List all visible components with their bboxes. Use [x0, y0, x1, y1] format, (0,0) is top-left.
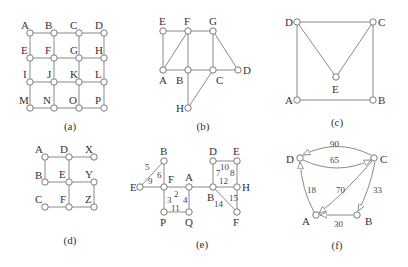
node-label: E [233, 145, 240, 157]
node-label: I [23, 68, 27, 80]
node-label: C [216, 74, 223, 86]
node-C [210, 67, 216, 73]
node-label: P [95, 94, 101, 106]
nodes: DCEAB [285, 16, 385, 106]
nodes: ADXBEYCFZ [35, 143, 97, 210]
node-label: J [47, 68, 52, 80]
panel-d-graph: ADXBEYCFZ(d) [35, 143, 97, 247]
node-label: H [242, 181, 250, 193]
node-label: E [159, 15, 166, 27]
panel-caption: (b) [197, 120, 210, 133]
node-label: Z [85, 193, 92, 205]
edge-C-H [188, 70, 213, 108]
edge-weight-label: 2 [174, 189, 179, 199]
node-A [313, 212, 319, 218]
node-label: F [60, 193, 66, 205]
panel-f-directed-weighted-graph: 906518703330DCAB(f) [286, 139, 387, 252]
node-D [297, 155, 303, 161]
node-N [51, 105, 57, 111]
edge-weight-label: 15 [229, 193, 239, 203]
node-label: E [332, 83, 339, 95]
node-H [234, 184, 240, 190]
node-B [161, 158, 167, 164]
node-E [66, 179, 72, 185]
node-label: E [21, 44, 28, 56]
node-C [370, 19, 376, 25]
edges [163, 31, 238, 108]
node-label: D [209, 145, 217, 157]
arc-C-to-A [319, 161, 372, 213]
node-label: N [43, 94, 51, 106]
node-label: A [285, 94, 293, 106]
edge-weight-label: 8 [230, 168, 235, 178]
node-label: D [60, 143, 68, 155]
edge-A-F [163, 31, 188, 70]
node-label: E [59, 168, 66, 180]
node-label: C [380, 153, 387, 165]
node-label: B [207, 191, 214, 203]
node-D [294, 19, 300, 25]
graph-figure: ABCDEFGHIJKLMNOP(a) EFGABCDH(b) DCEAB(c)… [0, 0, 408, 267]
node-E [234, 158, 240, 164]
node-label: F [45, 44, 51, 56]
panel-b-graph: EFGABCDH(b) [159, 15, 251, 133]
node-Z [91, 204, 97, 210]
edge-weight-label: 10 [220, 162, 230, 172]
node-P [101, 105, 107, 111]
node-label: B [45, 19, 52, 31]
node-C [42, 204, 48, 210]
node-label: B [160, 145, 167, 157]
edge-weight-label: 9 [148, 176, 153, 186]
node-label: A [35, 143, 43, 155]
node-F [66, 204, 72, 210]
node-J [51, 79, 57, 85]
node-L [101, 79, 107, 85]
node-C [371, 155, 377, 161]
edge-weight-label: 14 [214, 199, 224, 209]
node-label: D [286, 153, 294, 165]
edge-weight-label: 4 [183, 195, 188, 205]
node-F [161, 184, 167, 190]
panel-caption: (d) [64, 234, 77, 247]
node-B [42, 179, 48, 185]
edge-weight-label: 30 [334, 219, 344, 229]
node-label: A [21, 19, 29, 31]
node-label: E [130, 181, 137, 193]
node-label: X [85, 143, 93, 155]
node-B [370, 97, 376, 103]
node-label: G [209, 15, 217, 27]
edge-C-E [336, 22, 373, 77]
node-label: G [70, 44, 78, 56]
node-label: D [243, 64, 251, 76]
node-B [185, 67, 191, 73]
node-label: A [159, 74, 167, 86]
node-label: D [95, 19, 103, 31]
edge-weight-label: 11 [171, 203, 180, 213]
edge-weight-label: 70 [336, 185, 346, 195]
node-D [235, 67, 241, 73]
panel-caption: (a) [64, 120, 77, 133]
node-label: P [160, 216, 166, 228]
node-E [137, 184, 143, 190]
node-label: A [302, 215, 310, 227]
panel-e-weighted-graph: 596234117108121415BEFAPQDEBHF(e) [130, 145, 250, 251]
node-label: B [176, 74, 183, 86]
nodes: EFGABCDH [159, 15, 251, 114]
node-label: A [185, 171, 193, 183]
node-label: O [69, 94, 77, 106]
node-label: C [35, 193, 42, 205]
edge-weight-label: 5 [145, 162, 150, 172]
node-B [210, 184, 216, 190]
edges [30, 33, 104, 108]
node-D [210, 158, 216, 164]
panel-caption: (e) [196, 238, 209, 251]
node-A [160, 67, 166, 73]
node-label: B [365, 215, 372, 227]
node-A [294, 97, 300, 103]
node-B [354, 212, 360, 218]
panel-c-graph: DCEAB(c) [285, 16, 385, 129]
node-F [234, 209, 240, 215]
node-label: C [378, 16, 385, 28]
node-F [185, 28, 191, 34]
edge-D-E [297, 22, 336, 77]
